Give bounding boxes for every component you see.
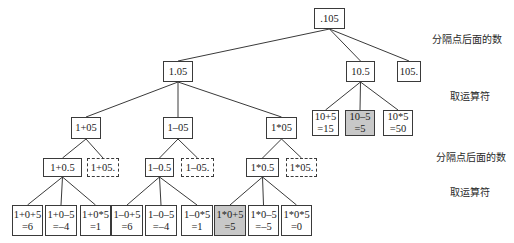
node-result: =–4 [53, 221, 69, 233]
tree-edge [330, 29, 410, 61]
tree-node-l3: 1+0*5=1 [80, 205, 111, 236]
tree-node-l5: 1–0–5=–4 [145, 205, 177, 236]
node-result: =–5 [255, 221, 271, 233]
node-expression: 1–0*5 [184, 209, 210, 221]
tree-node-m_end: 1–05. [181, 158, 214, 177]
tree-edge [263, 177, 264, 205]
node-expression: 1+0–5 [48, 209, 75, 221]
tree-node-a_mul: 1*05 [266, 117, 297, 139]
node-result: =–4 [153, 221, 169, 233]
node-expression: 1*0–5 [250, 209, 276, 221]
node-expression: 10+5 [315, 111, 337, 123]
tree-node-l6: 1–0*5=1 [181, 205, 213, 236]
tree-edge [127, 177, 160, 205]
tree-node-b_plus: 10+5=15 [312, 110, 339, 136]
tree-edge [178, 82, 282, 117]
tree-node-l7: 1*0+5=5 [214, 205, 246, 236]
node-expression: 1–0–5 [148, 209, 174, 221]
tree-node-root: .105 [314, 8, 345, 29]
tree-node-a_minus: 1–05 [163, 117, 193, 139]
node-expression: 1*0+5 [217, 209, 244, 221]
node-expression: 1+0+5 [14, 209, 42, 221]
search-tree-diagram: .1051.0510.5105.1+051–051*0510+5=1510–5=… [0, 0, 514, 243]
node-result: =5 [354, 123, 365, 135]
tree-edge [330, 29, 361, 61]
tree-node-n105a: 1.05 [163, 61, 193, 82]
tree-node-l9: 1*0*5=0 [281, 205, 312, 236]
tree-edge [282, 139, 302, 158]
node-result: =50 [390, 123, 406, 135]
tree-edge [160, 139, 179, 158]
tree-edge [86, 139, 103, 158]
tree-node-b_mul: 10*5=50 [383, 110, 413, 136]
node-expression: 1–0+5 [114, 209, 141, 221]
tree-edge [263, 139, 282, 158]
tree-node-m_sep: 1–0.5 [145, 158, 174, 177]
tree-edge [230, 177, 263, 205]
tree-edge [361, 82, 399, 110]
level-label: 分隔点后面的数 [436, 149, 506, 164]
tree-node-p_sep: 1+0.5 [43, 158, 82, 177]
level-label: 取运算符 [450, 184, 490, 199]
tree-node-x_sep: 1*0.5 [246, 158, 279, 177]
node-result: =15 [317, 123, 333, 135]
tree-node-l2: 1+0–5=–4 [45, 205, 77, 236]
tree-edge [86, 82, 178, 117]
tree-edge [61, 177, 63, 205]
tree-node-a_plus: 1+05 [71, 117, 101, 139]
node-result: =1 [90, 221, 101, 233]
tree-edge [178, 29, 330, 61]
node-result: =6 [22, 221, 33, 233]
node-expression: 1*0*5 [283, 209, 309, 221]
tree-edge [263, 177, 297, 205]
tree-edge [178, 139, 198, 158]
node-expression: 10*5 [388, 111, 409, 123]
tree-node-b_minus: 10–5=5 [345, 110, 375, 136]
tree-edge [326, 82, 361, 110]
tree-edge [28, 177, 63, 205]
tree-node-l8: 1*0–5=–5 [248, 205, 279, 236]
tree-node-n105b: 10.5 [346, 61, 375, 82]
tree-edge [160, 177, 198, 205]
tree-edge [63, 139, 87, 158]
node-result: =6 [121, 221, 132, 233]
node-result: =0 [291, 221, 302, 233]
node-result: =5 [224, 221, 235, 233]
node-result: =1 [191, 221, 202, 233]
tree-edge [63, 177, 96, 205]
tree-edge [360, 82, 361, 110]
tree-node-l1: 1+0+5=6 [12, 205, 43, 236]
level-label: 分隔点后面的数 [432, 31, 502, 46]
tree-node-l4: 1–0+5=6 [111, 205, 143, 236]
tree-node-n105c: 105. [397, 61, 421, 82]
node-expression: 1+0*5 [82, 209, 109, 221]
level-label: 取运算符 [450, 88, 490, 103]
tree-edge [160, 177, 162, 205]
tree-node-x_end: 1*05. [286, 158, 317, 177]
node-expression: 10–5 [350, 111, 371, 123]
tree-node-p_end: 1+05. [87, 158, 119, 177]
